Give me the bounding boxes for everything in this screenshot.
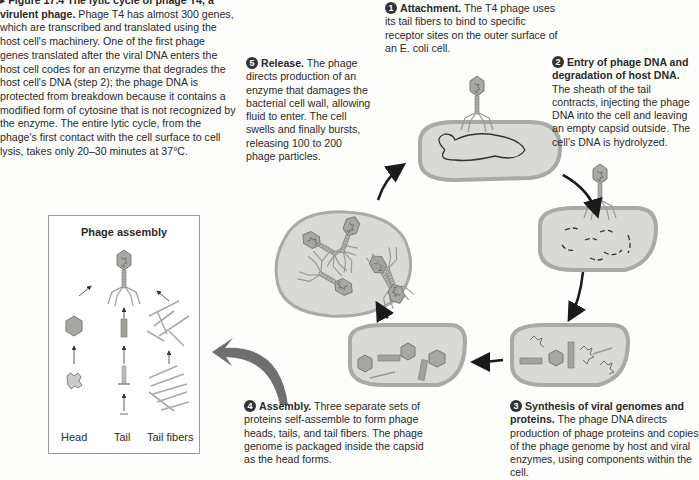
release-cell bbox=[276, 211, 415, 316]
tail-fibers-icon bbox=[147, 301, 189, 411]
assembly-panel-arrow bbox=[212, 338, 288, 405]
tail-label: Tail bbox=[114, 431, 131, 443]
synthesis-cell bbox=[512, 325, 628, 385]
step-number-badge: 4 bbox=[244, 400, 256, 412]
head-icon bbox=[66, 316, 82, 389]
arrow-3-to-4 bbox=[475, 360, 503, 362]
step-2-entry: 2Entry of phage DNA and degradation of h… bbox=[552, 56, 699, 149]
attachment-cell bbox=[420, 76, 560, 180]
assembly-illustration bbox=[49, 216, 199, 453]
tail-fibers-label: Tail fibers bbox=[147, 431, 193, 443]
step-number-badge: 2 bbox=[552, 56, 564, 68]
head-label: Head bbox=[61, 431, 87, 443]
step-number-badge: 1 bbox=[385, 2, 397, 14]
step-number-badge: 3 bbox=[510, 400, 522, 412]
arrow-5-to-1 bbox=[378, 166, 402, 200]
step-3-synthesis: 3Synthesis of viral genomes and proteins… bbox=[510, 400, 699, 480]
entry-cell bbox=[540, 164, 656, 270]
step-4-assembly: 4Assembly. Three separate sets of protei… bbox=[244, 400, 424, 466]
arrow-2-to-3 bbox=[570, 272, 583, 318]
step-1-attachment: 1Attachment. The T4 phage uses its tail … bbox=[385, 2, 565, 55]
assembly-cell bbox=[350, 325, 465, 385]
phage-assembly-panel: Phage assembly bbox=[48, 215, 200, 454]
step-5-release: 5Release. The phage directs production o… bbox=[246, 57, 374, 163]
complete-phage-icon bbox=[108, 250, 140, 306]
step-number-badge: 5 bbox=[246, 57, 258, 69]
tail-icon bbox=[118, 319, 130, 414]
